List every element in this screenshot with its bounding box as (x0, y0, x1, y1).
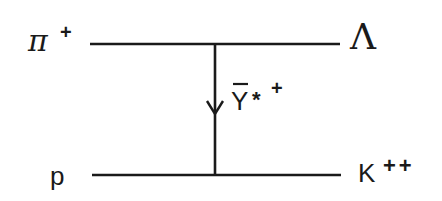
label-kaon-charge: ++ (383, 155, 415, 177)
label-exchange-modifier: * (252, 89, 261, 111)
label-exchange-charge: + (271, 78, 283, 98)
feynman-diagram: π + p Λ K ++ Y * + (0, 0, 442, 201)
label-pi-charge: + (60, 22, 72, 42)
label-pi: π (28, 26, 48, 56)
label-proton: p (50, 163, 64, 189)
label-kaon: K (358, 160, 375, 186)
label-lambda: Λ (350, 19, 376, 55)
label-exchange-particle: Y (231, 88, 248, 114)
